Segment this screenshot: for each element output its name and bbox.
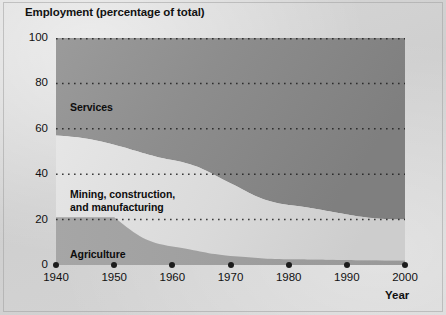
x-tick-marker-1970 (228, 262, 234, 268)
y-tick-0: 0 (42, 258, 48, 270)
page-title: Employment (percentage of total) (25, 6, 205, 18)
x-axis-title: Year (385, 289, 409, 301)
x-tick-marker-1950 (111, 262, 117, 268)
y-tick-100: 100 (29, 31, 48, 43)
series-label-services: Services (70, 101, 113, 114)
x-tick-1960: 1960 (150, 271, 194, 283)
chart-canvas (56, 38, 405, 265)
figure-panel: Employment (percentage of total) (0, 0, 446, 315)
x-axis: 1940 1950 1960 1970 1980 1990 2000 (56, 265, 405, 291)
x-tick-marker-1940 (53, 262, 59, 268)
x-tick-1990: 1990 (325, 271, 369, 283)
x-tick-1940: 1940 (34, 271, 78, 283)
x-tick-1980: 1980 (267, 271, 311, 283)
y-tick-40: 40 (35, 167, 48, 179)
stacked-area-chart: Services Mining, construction, and manuf… (56, 38, 405, 265)
series-label-agriculture: Agriculture (70, 248, 125, 261)
x-tick-1970: 1970 (209, 271, 253, 283)
x-tick-marker-1960 (169, 262, 175, 268)
x-tick-marker-1980 (286, 262, 292, 268)
x-tick-1950: 1950 (92, 271, 136, 283)
series-label-mining: Mining, construction, and manufacturing (70, 188, 175, 213)
x-tick-marker-2000 (402, 262, 408, 268)
y-tick-20: 20 (35, 213, 48, 225)
x-tick-marker-1990 (344, 262, 350, 268)
y-axis: 100 80 60 40 20 0 (12, 38, 50, 265)
y-tick-80: 80 (35, 76, 48, 88)
y-tick-60: 60 (35, 122, 48, 134)
x-tick-2000: 2000 (383, 271, 427, 283)
